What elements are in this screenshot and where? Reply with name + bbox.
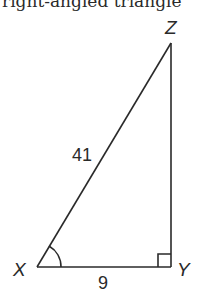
vertex-label-y: Y xyxy=(177,259,191,280)
vertex-label-z: Z xyxy=(164,17,178,38)
right-angle-marker-icon xyxy=(158,254,171,267)
angle-arc-x-icon xyxy=(49,246,61,267)
side-label-base: 9 xyxy=(98,273,108,293)
side-label-hypotenuse: 41 xyxy=(72,145,92,165)
vertex-label-x: X xyxy=(12,259,27,280)
side-xz-hypotenuse xyxy=(37,43,171,267)
triangle-diagram: Z X Y 41 9 xyxy=(0,0,197,305)
